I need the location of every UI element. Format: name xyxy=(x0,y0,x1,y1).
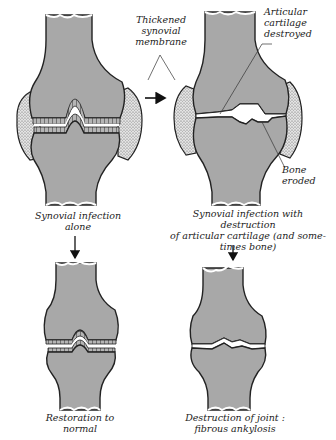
joint-fibrous-ankylosis xyxy=(190,266,266,410)
joint-restored xyxy=(44,262,118,410)
upper-bone xyxy=(44,263,118,340)
label-bone-eroded: Bone eroded xyxy=(282,164,322,186)
diagram-canvas: Thickened synovial membrane Articular ca… xyxy=(0,0,336,440)
lower-bone xyxy=(193,116,287,205)
caption-restoration-to-normal: Restoration to normal xyxy=(30,412,130,434)
lower-bone xyxy=(191,343,266,410)
caption-synovial-infection-with-destruction: Synovial infection with destruction of a… xyxy=(168,208,328,252)
caption-fibrous-ankylosis: Destruction of joint : fibrous ankylosis xyxy=(180,412,290,434)
upper-bone xyxy=(190,268,266,344)
lower-bone xyxy=(47,345,116,410)
label-thickened-synovial-membrane: Thickened synovial membrane xyxy=(128,14,194,47)
caption-synovial-infection-alone: Synovial infection alone xyxy=(18,210,138,232)
joint-synovial-infection xyxy=(17,15,142,205)
lower-bone xyxy=(31,121,120,205)
label-articular-cartilage-destroyed: Articular cartilage destroyed xyxy=(264,6,328,39)
